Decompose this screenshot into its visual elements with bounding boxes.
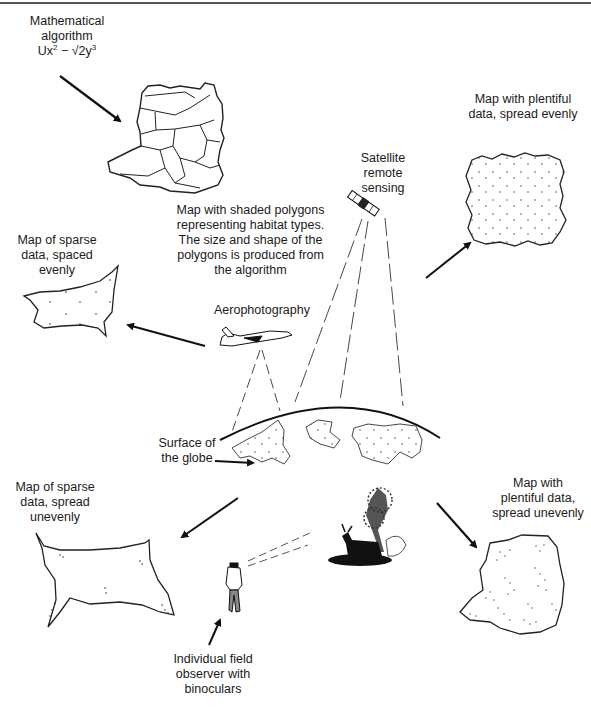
label-line: Mathematical [22, 14, 112, 29]
label-line: spread unevenly [488, 506, 588, 521]
label-line: Map with [488, 476, 588, 491]
arrow-algorithm-to-polygon-map [60, 76, 120, 121]
label-line: evenly [17, 263, 97, 278]
label-line: Individual field [163, 652, 263, 667]
formula-part: Ux [38, 44, 53, 58]
arrow-plane-to-sparse-even-map [128, 325, 205, 346]
formula-exponent: 3 [92, 43, 96, 52]
label-line: data, spread evenly [463, 107, 583, 122]
label-line: data, spread [15, 495, 95, 510]
plentiful-even-map-icon [466, 153, 566, 246]
label-line: Satellite [353, 151, 413, 166]
aerophotography-beams [232, 350, 280, 432]
label-line: unevenly [15, 510, 95, 525]
airplane-icon [220, 327, 292, 346]
label-line: Map of sparse [17, 233, 97, 248]
label-line: binoculars [163, 682, 263, 697]
label-line: the globe [152, 451, 222, 466]
arrow-observer-to-sparse-uneven-map [182, 498, 238, 537]
label-line: algorithm [22, 29, 112, 44]
sparse-uneven-map-icon [36, 533, 174, 627]
plentiful-uneven-map-icon [460, 535, 564, 634]
polygon-habitat-map-icon [108, 83, 224, 193]
label-sparse-even: Map of sparse data, spaced evenly [17, 233, 97, 278]
label-line: sensing [353, 181, 413, 196]
label-line: Map with plentiful [463, 92, 583, 107]
algorithm-formula: Ux2 − √2y3 [22, 44, 112, 59]
label-line: Map of sparse [15, 480, 95, 495]
arrow-observer-label-to-observer [209, 620, 220, 645]
formula-part: − √2y [57, 44, 91, 58]
label-line: Map with shaded polygons [163, 203, 338, 218]
label-line: Aerophotography [214, 303, 314, 318]
arrow-to-plentiful-even-map [426, 243, 470, 278]
label-polygon-map-caption: Map with shaded polygons representing ha… [163, 203, 338, 278]
label-line: polygons is produced from [163, 248, 338, 263]
label-field-observer: Individual field observer with binocular… [163, 652, 263, 697]
label-plentiful-even: Map with plentiful data, spread evenly [463, 92, 583, 122]
label-line: representing habitat types. [163, 218, 338, 233]
label-line: plentiful data, [488, 491, 588, 506]
binocular-sight-lines [248, 532, 312, 566]
label-line: observer with [163, 667, 263, 682]
arrow-wildlife-to-plentiful-uneven-map [437, 503, 476, 547]
label-line: remote [353, 166, 413, 181]
label-line: data, spaced [17, 248, 97, 263]
label-mathematical-algorithm: Mathematical algorithm Ux2 − √2y3 [22, 14, 112, 59]
label-plentiful-uneven: Map with plentiful data, spread unevenly [488, 476, 588, 521]
label-aerophotography: Aerophotography [214, 303, 314, 318]
label-satellite-remote-sensing: Satellite remote sensing [353, 151, 413, 196]
label-line: Surface of [152, 436, 222, 451]
label-line: the algorithm [163, 263, 338, 278]
person-binoculars-icon [226, 563, 242, 612]
deer-tree-icon [328, 488, 406, 566]
label-surface-of-globe: Surface of the globe [152, 436, 222, 466]
label-sparse-uneven: Map of sparse data, spread unevenly [15, 480, 95, 525]
label-line: The size and shape of the [163, 233, 338, 248]
globe-surface-icon [220, 407, 440, 464]
